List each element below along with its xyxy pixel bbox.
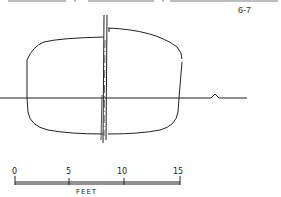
scale-label-5: 5: [66, 167, 71, 176]
scale-unit-label: FEET: [76, 188, 97, 196]
scale-bar: [15, 176, 180, 185]
scale-label-10: 10: [117, 167, 127, 176]
scale-label-0: 0: [12, 167, 17, 176]
hull-diagram: 0 5 10 15 FEET: [0, 0, 281, 197]
center-post: [101, 15, 109, 143]
waterline: [0, 94, 247, 98]
scale-label-15: 15: [173, 167, 183, 176]
